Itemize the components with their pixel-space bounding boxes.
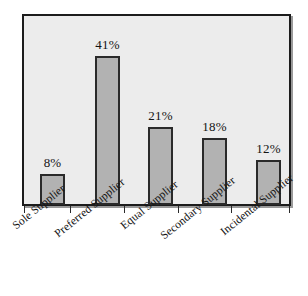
axis-tick: [70, 206, 71, 213]
axis-tick: [289, 206, 290, 213]
axis-tick: [231, 206, 232, 213]
bar-value-label: 12%: [239, 141, 299, 157]
bar-value-label: 41%: [78, 37, 138, 53]
bar-value-label: 8%: [23, 155, 83, 171]
axis-tick: [124, 206, 125, 213]
bar-value-label: 21%: [131, 108, 191, 124]
bar-chart: 8%41%21%18%12% Sole SupplierPreferred Su…: [0, 0, 308, 296]
axis-tick: [178, 206, 179, 213]
bar-value-label: 18%: [185, 119, 245, 135]
